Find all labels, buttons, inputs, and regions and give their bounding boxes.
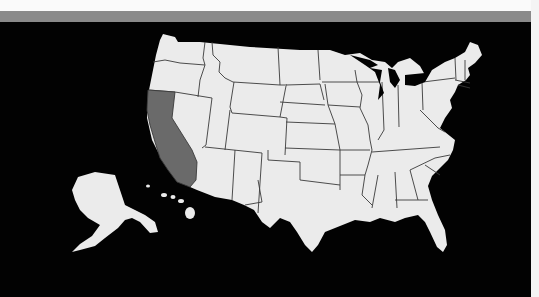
alaska — [72, 172, 158, 252]
us-map — [0, 0, 539, 297]
hawaii — [146, 185, 195, 220]
contiguous-us — [147, 34, 482, 252]
